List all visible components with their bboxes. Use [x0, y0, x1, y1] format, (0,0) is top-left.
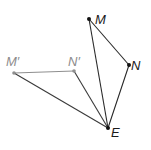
- label-mprime: M′: [6, 54, 20, 69]
- segment-mprime-e: [14, 73, 108, 128]
- point-e: [106, 126, 110, 130]
- label-n: N: [131, 58, 141, 73]
- rotation-diagram: M N E M′ N′: [0, 0, 151, 150]
- segment-mprime-nprime: [14, 71, 74, 73]
- point-m: [87, 17, 91, 21]
- label-e: E: [111, 125, 120, 140]
- label-nprime: N′: [68, 54, 80, 69]
- point-nprime: [72, 69, 76, 73]
- segment-n-e: [108, 65, 129, 128]
- point-mprime: [12, 71, 16, 75]
- label-m: M: [95, 12, 106, 27]
